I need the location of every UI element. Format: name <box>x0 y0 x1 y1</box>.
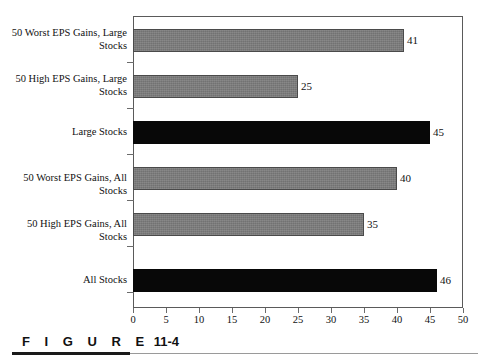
bar-50-worst-eps-gains-all-stocks[interactable] <box>133 167 397 190</box>
bar-50-worst-eps-gains-large-stocks[interactable] <box>133 29 404 52</box>
bar-large-stocks[interactable] <box>133 121 430 144</box>
y-axis-tick <box>127 154 134 155</box>
x-axis-tick <box>364 308 365 313</box>
y-axis-tick <box>127 200 134 201</box>
bar-value-label: 25 <box>301 80 312 92</box>
bar-value-label: 41 <box>407 34 418 46</box>
bars-layer <box>133 16 463 308</box>
figure-caption-word: F I G U R E <box>22 334 150 349</box>
x-axis-tick-label: 10 <box>184 314 214 325</box>
x-axis-tick <box>166 308 167 313</box>
x-axis-tick-label: 0 <box>118 314 148 325</box>
y-axis-tick <box>127 62 134 63</box>
figure-container: 41 25 45 40 35 46 50 Worst EPS Gains, La… <box>0 0 483 361</box>
category-label-50-high-eps-gains-large-stocks: 50 High EPS Gains, Large Stocks <box>6 73 127 98</box>
x-axis-tick-label: 5 <box>151 314 181 325</box>
x-axis-tick <box>232 308 233 313</box>
category-label-50-worst-eps-gains-all-stocks: 50 Worst EPS Gains, All Stocks <box>2 172 127 197</box>
bar-value-label: 40 <box>400 172 411 184</box>
x-axis-tick <box>265 308 266 313</box>
x-axis-tick-label: 50 <box>448 314 478 325</box>
y-axis-tick <box>127 246 134 247</box>
caption-rule-thin <box>130 353 478 354</box>
x-axis-tick <box>463 308 464 313</box>
x-axis-tick-label: 45 <box>415 314 445 325</box>
bar-value-label: 46 <box>440 274 451 286</box>
x-axis-tick-label: 20 <box>250 314 280 325</box>
x-axis-tick-label: 25 <box>283 314 313 325</box>
figure-caption: F I G U R E11-4 <box>22 334 179 349</box>
bar-50-high-eps-gains-all-stocks[interactable] <box>133 213 364 236</box>
x-axis-tick-label: 40 <box>382 314 412 325</box>
x-axis-tick-label: 30 <box>316 314 346 325</box>
category-label-all-stocks: All Stocks <box>6 274 127 287</box>
y-axis-tick <box>127 292 134 293</box>
figure-caption-number: 11-4 <box>154 334 179 349</box>
category-label-50-high-eps-gains-all-stocks: 50 High EPS Gains, All Stocks <box>2 218 127 243</box>
x-axis-tick <box>397 308 398 313</box>
x-axis-tick <box>331 308 332 313</box>
x-axis-tick-label: 35 <box>349 314 379 325</box>
x-axis-tick <box>298 308 299 313</box>
x-axis-tick-label: 15 <box>217 314 247 325</box>
x-axis-tick <box>133 308 134 313</box>
category-label-large-stocks: Large Stocks <box>6 126 127 139</box>
bar-all-stocks[interactable] <box>133 269 437 292</box>
x-axis-tick <box>199 308 200 313</box>
bar-value-label: 35 <box>367 218 378 230</box>
x-axis-tick <box>430 308 431 313</box>
bar-50-high-eps-gains-large-stocks[interactable] <box>133 75 298 98</box>
bar-value-label: 45 <box>433 126 444 138</box>
caption-rule-thick <box>12 352 130 355</box>
category-label-50-worst-eps-gains-large-stocks: 50 Worst EPS Gains, Large Stocks <box>6 27 127 52</box>
y-axis-tick <box>127 108 134 109</box>
